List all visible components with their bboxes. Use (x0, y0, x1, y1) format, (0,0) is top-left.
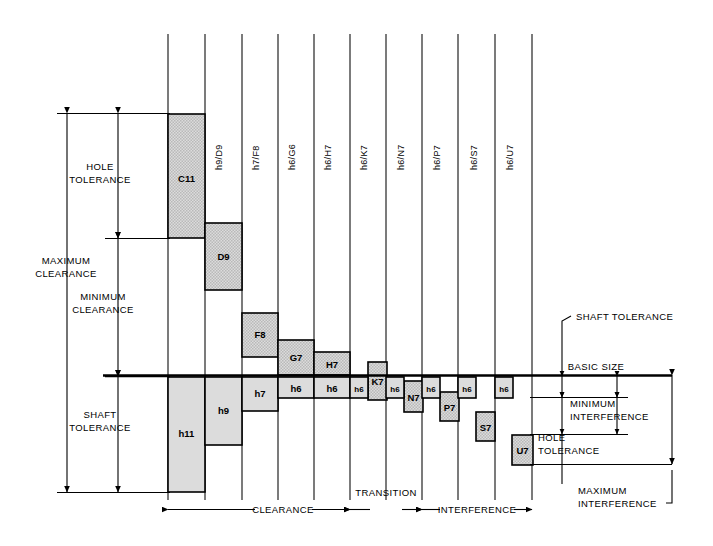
column-label-5: h6/K7 (359, 145, 369, 170)
hole-box-label: D9 (217, 251, 229, 262)
hole-box-d9: D9 (205, 223, 242, 290)
shaft-box-h6-8: h6 (458, 377, 476, 398)
hole-box-label: S7 (480, 422, 492, 433)
maximum-clearance-label-line1: MAXIMUM (42, 255, 91, 266)
hole-box-c11: C11 (168, 114, 205, 238)
shaft-box-h6-9: h6 (495, 377, 513, 398)
shaft-box-label: h6 (390, 385, 400, 394)
column-label-6: h6/N7 (396, 144, 406, 170)
shaft-box-label: h7 (254, 388, 265, 399)
shaft-box-h6-7: h6 (422, 377, 440, 398)
hole-box-f8: F8 (242, 313, 278, 357)
shaft-tolerance-label-line1: SHAFT (83, 409, 116, 420)
hole-box-k7: K7 (368, 362, 387, 400)
hole-box-label: K7 (371, 376, 383, 387)
shaft-box-label: h9 (218, 405, 229, 416)
shaft-box-h6-5: h6 (350, 377, 368, 398)
shaft-box-label: h6 (290, 383, 301, 394)
hole-tolerance-right-label-line2: TOLERANCE (538, 445, 600, 456)
shaft-box-h9: h9 (205, 377, 242, 445)
shaft-box-label: h6 (462, 385, 472, 394)
maximum-clearance-label-line2: CLEARANCE (35, 268, 97, 279)
minimum-interference-label-line1: MINIMUM (570, 398, 616, 409)
shaft-box-label: h11 (179, 428, 196, 439)
tolerance-diagram: h11/C11 h9/D9 h7/F8 h6/G6 h6/H7 h6/K7 h6… (0, 0, 713, 546)
hole-tolerance-label-line2: TOLERANCE (69, 174, 131, 185)
zone-label-transition: TRANSITION (355, 487, 417, 498)
zone-label-clearance: CLEARANCE (252, 504, 314, 515)
minimum-clearance-label-line1: MINIMUM (80, 291, 126, 302)
hole-box-label: G7 (290, 352, 303, 363)
shaft-box-h6-6: h6 (386, 377, 404, 398)
column-label-3: h6/G6 (287, 144, 297, 170)
shaft-box-h11: h11 (168, 377, 205, 492)
hole-box-u7: U7 (512, 435, 533, 465)
hole-box-label: H7 (326, 359, 338, 370)
hole-box-label: U7 (516, 445, 528, 456)
shaft-box-label: h6 (326, 383, 337, 394)
shaft-box-h6-4: h6 (314, 377, 350, 398)
hole-box-label: P7 (444, 402, 456, 413)
hole-tolerance-right-label-line1: HOLE (538, 432, 565, 443)
shaft-box-label: h6 (426, 385, 436, 394)
basic-size-label: BASIC SIZE (568, 361, 624, 372)
hole-box-p7: P7 (440, 392, 459, 421)
hole-box-s7: S7 (476, 412, 495, 441)
shaft-box-label: h6 (499, 385, 509, 394)
shaft-box-h7: h7 (242, 377, 278, 411)
shaft-tolerance-label-line2: TOLERANCE (69, 422, 131, 433)
column-label-9: h6/U7 (505, 144, 515, 170)
hole-box-n7: N7 (404, 381, 423, 412)
hole-tolerance-label-line1: HOLE (86, 161, 113, 172)
hole-box-label: N7 (407, 392, 419, 403)
hole-box-g7: G7 (278, 340, 314, 375)
minimum-clearance-label-line2: CLEARANCE (72, 304, 134, 315)
column-label-7: h6/P7 (432, 145, 442, 170)
shaft-box-label: h6 (354, 385, 364, 394)
hole-box-h7: H7 (314, 352, 350, 375)
shaft-tolerance-right-label: SHAFT TOLERANCE (576, 311, 673, 322)
minimum-interference-label-line2: INTERFERENCE (570, 411, 649, 422)
diagram-canvas: h11/C11 h9/D9 h7/F8 h6/G6 h6/H7 h6/K7 h6… (0, 0, 713, 546)
zone-label-interference: INTERFERENCE (438, 504, 517, 515)
column-label-1: h9/D9 (214, 144, 224, 170)
maximum-interference-label-line2: INTERFERENCE (578, 498, 657, 509)
column-label-8: h6/S7 (469, 145, 479, 170)
shaft-box-h6-3: h6 (278, 377, 314, 398)
maximum-interference-label-line1: MAXIMUM (578, 485, 627, 496)
column-label-2: h7/F8 (251, 145, 261, 170)
hole-box-label: C11 (178, 173, 196, 184)
hole-box-label: F8 (254, 329, 265, 340)
column-label-4: h6/H7 (323, 144, 333, 170)
